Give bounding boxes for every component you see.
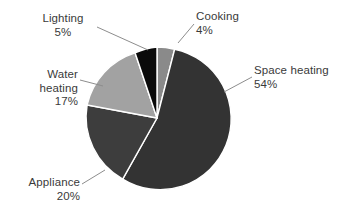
- pie-label-water-heating-value: 17%: [6, 95, 78, 109]
- leader-line-cooking: [178, 24, 194, 43]
- pie-label-water-heating-name-line2: heating: [6, 82, 78, 96]
- leader-line-space-heating: [224, 77, 252, 92]
- pie-label-cooking-value: 4%: [196, 24, 239, 38]
- pie-label-water-heating-name-line1: Water: [6, 68, 78, 82]
- pie-label-appliance-value: 20%: [4, 190, 80, 204]
- pie-label-lighting: Lighting 5%: [30, 12, 96, 39]
- pie-label-water-heating: Water heating 17%: [6, 68, 78, 109]
- pie-label-cooking: Cooking 4%: [196, 10, 239, 37]
- pie-label-lighting-name: Lighting: [30, 12, 96, 26]
- pie-label-appliance: Appliance 20%: [4, 176, 80, 203]
- pie-label-cooking-name: Cooking: [196, 10, 239, 24]
- pie-label-appliance-name: Appliance: [4, 176, 80, 190]
- pie-label-lighting-value: 5%: [30, 26, 96, 40]
- pie-label-space-heating: Space heating 54%: [254, 64, 329, 91]
- leader-line-lighting: [97, 27, 148, 50]
- pie-label-space-heating-name: Space heating: [254, 64, 329, 78]
- pie-chart: Lighting 5% Cooking 4% Space heating 54%…: [0, 0, 347, 222]
- leader-line-appliance: [82, 170, 105, 184]
- pie-label-space-heating-value: 54%: [254, 78, 329, 92]
